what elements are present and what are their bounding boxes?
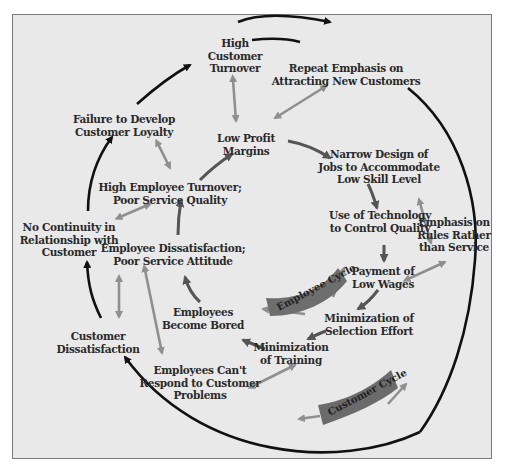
node-high-customer-turnover: High Customer Turnover [208, 37, 263, 75]
node-low-profit: Low Profit Margins [217, 132, 275, 157]
customer-cycle-label: Customer Cycle [326, 367, 409, 418]
node-employees-bored: Employees Become Bored [162, 306, 244, 331]
node-employees-cant-respond: Employees Can't Respond to Customer Prob… [139, 364, 260, 402]
node-minimization-training: Minimization of Training [254, 341, 329, 366]
node-use-technology: Use of Technology to Control Quality [329, 209, 431, 234]
node-minimization-selection: Minimization of Selection Effort [324, 312, 413, 337]
node-repeat-emphasis: Repeat Emphasis on Attracting New Custom… [272, 62, 421, 87]
node-employee-dissatisfaction: Employee Dissatisfaction; Poor Service A… [101, 242, 246, 267]
employee-cycle-band: Employee Cycle [266, 262, 357, 316]
node-narrow-design: Narrow Design of Jobs to Accommodate Low… [318, 148, 440, 186]
node-emphasis-rules: Emphasis on Rules Rather than Service [417, 216, 490, 254]
node-failure-loyalty: Failure to Develop Customer Loyalty [73, 113, 175, 138]
node-high-employee-turnover: High Employee Turnover; Poor Service Qua… [98, 181, 241, 206]
node-customer-dissatisfaction: Customer Dissatisfaction [56, 330, 139, 355]
node-payment-low-wages: Payment of Low Wages [352, 265, 415, 290]
